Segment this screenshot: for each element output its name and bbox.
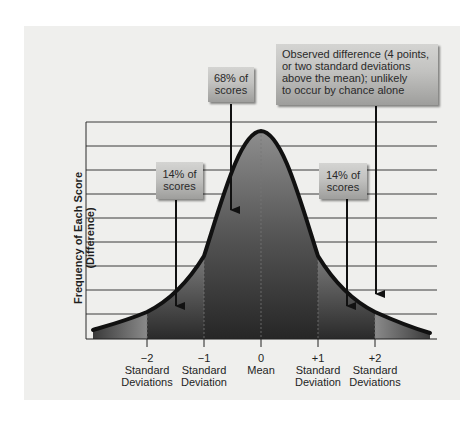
tick-label-plus-2: +2 Standard Deviations [335,352,415,388]
callout-68-line2: scores [208,84,254,96]
callout-observed-line4: to occur by chance alone [282,84,432,96]
y-axis-label-line2: (Difference) [84,158,96,318]
callout-left-line2: scores [156,180,203,192]
tick-text-line1: Standard [335,364,415,376]
callout-observed-line3: above the mean); unlikely [282,72,432,84]
tick-text-line2: Deviations [335,376,415,388]
callout-left-line1: 14% of [156,168,203,180]
tick-text-line2: Deviation [164,376,244,388]
curve-fill [93,131,430,339]
callout-right-line2: scores [319,181,367,193]
callout-observed-line2: or two standard deviations [282,60,432,72]
callout-observed-line1: Observed difference (4 points, [282,48,432,60]
callout-14-percent-right: 14% of scores [319,163,367,199]
callout-68-percent: 68% of scores [208,67,254,102]
callout-right-line1: 14% of [319,169,367,181]
callout-14-percent-left: 14% of scores [156,162,203,199]
y-axis-label-line1: Frequency of Each Score [72,158,84,318]
y-axis-label: Frequency of Each Score (Difference) [72,158,96,318]
x-axis-ticks [147,339,375,347]
callout-68-line1: 68% of [208,72,254,84]
tick-value: +2 [335,352,415,364]
callout-observed-difference: Observed difference (4 points, or two st… [276,44,438,105]
